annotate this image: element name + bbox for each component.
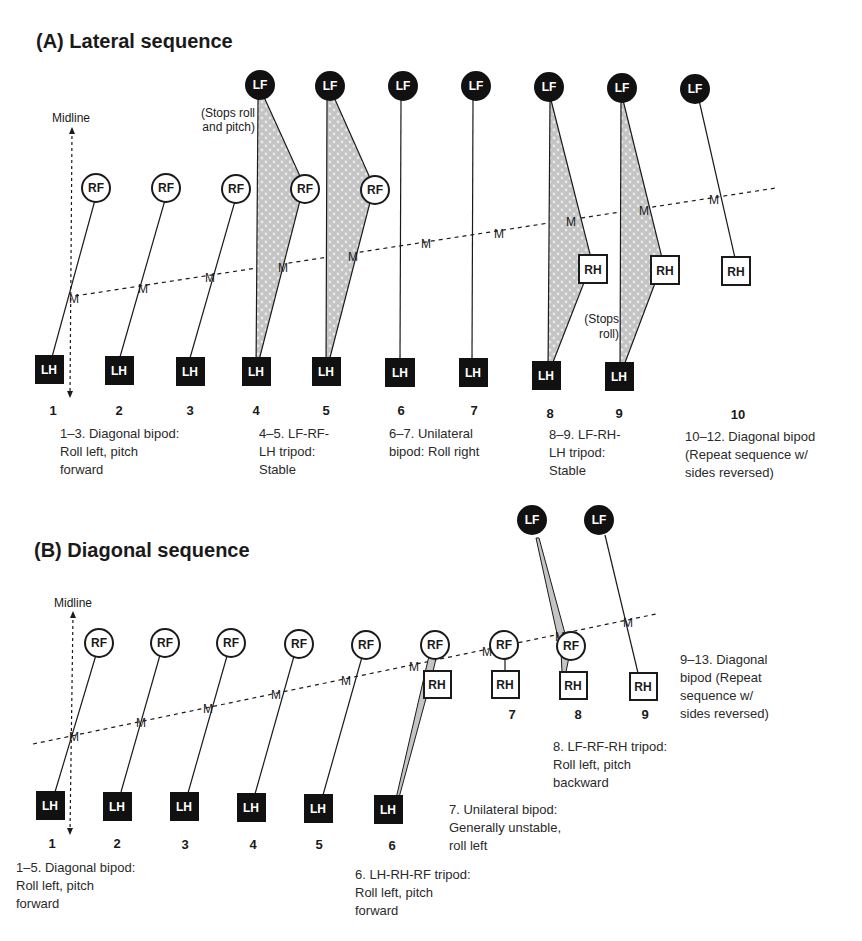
m-marker: M — [138, 282, 148, 296]
lf-foot-8: LF — [517, 505, 547, 535]
lf-foot-8: LF — [534, 72, 564, 102]
m-marker: M — [69, 292, 79, 306]
lf-foot-6: LF — [388, 71, 418, 101]
rf-label: RF — [291, 637, 307, 651]
midline-label-b: Midline — [54, 596, 92, 610]
step-number: 7 — [508, 707, 515, 722]
lf-foot-5: LF — [315, 71, 345, 101]
rf-foot-2: RF — [151, 629, 179, 657]
rh-label: RH — [656, 264, 673, 278]
annotation-stops-roll-1: (Stops — [584, 312, 619, 326]
step-numbers-a: 1 2 3 4 5 6 7 8 9 10 — [49, 403, 745, 422]
lf-label: LF — [469, 79, 484, 93]
lh-label: LH — [392, 366, 408, 380]
lh-foot-3: LH — [170, 792, 199, 821]
support-tripod-9 — [620, 100, 663, 376]
caption-line: forward — [355, 903, 398, 918]
lh-label: LH — [41, 363, 57, 377]
lf-label: LF — [525, 513, 540, 527]
rf-foot-3: RF — [222, 175, 250, 203]
arrowhead-down — [67, 391, 73, 398]
rh-feet-b: RH RH RH RH — [424, 671, 657, 700]
panel-a-title: (A) Lateral sequence — [36, 30, 233, 52]
lh-label: LH — [109, 800, 125, 814]
caption-line: Roll left, pitch — [60, 444, 138, 459]
lh-label: LH — [310, 802, 326, 816]
support-line-6 — [400, 100, 401, 358]
caption-line: bipod: Roll right — [389, 444, 480, 459]
support-line-2 — [120, 200, 165, 357]
lh-foot-4: LH — [242, 357, 271, 386]
annotation-stops-roll-pitch-2: and pitch) — [202, 120, 255, 134]
lh-label: LH — [318, 365, 334, 379]
rf-label: RF — [158, 181, 174, 195]
step-number: 2 — [115, 403, 122, 418]
panel-a: (A) Lateral sequence Midline M M M M M M… — [35, 30, 815, 480]
m-marker: M — [623, 616, 633, 630]
step-number: 6 — [397, 403, 404, 418]
lh-feet-b: LH LH LH LH LH LH — [36, 791, 403, 824]
caption-a-1: 1–3. Diagonal bipod: Roll left, pitch fo… — [60, 426, 179, 477]
m-marker: M — [566, 215, 576, 229]
arrowhead-up — [69, 127, 75, 134]
lf-label: LF — [396, 79, 411, 93]
lh-label: LH — [243, 801, 259, 815]
lh-label: LH — [465, 366, 481, 380]
rh-foot-7: RH — [492, 671, 519, 698]
m-marker: M — [205, 271, 215, 285]
lf-label: LF — [592, 513, 607, 527]
caption-line: 10–12. Diagonal bipod — [685, 429, 815, 444]
lh-foot-7: LH — [459, 358, 488, 387]
rf-feet-b: RF RF RF RF RF RF RF RF — [85, 629, 585, 660]
lf-label: LF — [542, 80, 557, 94]
rh-foot-8: RH — [560, 672, 587, 699]
caption-line: Roll left, pitch — [16, 878, 94, 893]
caption-line: sequence w/ — [680, 688, 753, 703]
rf-foot-4: RF — [285, 630, 313, 658]
step-number: 1 — [48, 836, 55, 851]
rh-label: RH — [634, 680, 651, 694]
step-number: 9 — [641, 707, 648, 722]
support-line-1 — [55, 655, 96, 792]
lf-label: LF — [323, 79, 338, 93]
lh-foot-3: LH — [176, 357, 205, 386]
arrowhead-up — [70, 611, 76, 618]
caption-line: 6. LH-RH-RF tripod: — [355, 867, 471, 882]
rf-label: RF — [297, 182, 313, 196]
rh-foot-6: RH — [424, 671, 451, 698]
caption-line: Stable — [259, 462, 296, 477]
caption-line: forward — [60, 462, 103, 477]
rh-foot-9: RH — [651, 256, 679, 284]
rf-label: RF — [88, 181, 104, 195]
step-number: 3 — [181, 837, 188, 852]
m-marker: M — [136, 716, 146, 730]
caption-b-4: 8. LF-RF-RH tripod: Roll left, pitch bac… — [553, 739, 667, 790]
rh-label: RH — [496, 678, 513, 692]
m-marker: M — [494, 227, 504, 241]
lh-feet-a: LH LH LH LH LH LH LH LH LH — [35, 355, 634, 391]
lf-feet-a: LF LF LF LF LF LF LF — [245, 70, 710, 104]
panel-b: (B) Diagonal sequence Midline M M M M M … — [16, 505, 769, 918]
lf-label: LF — [688, 82, 703, 96]
support-tripod-5 — [326, 86, 374, 373]
caption-line: 9–13. Diagonal — [680, 652, 768, 667]
caption-line: Roll left, pitch — [355, 885, 433, 900]
lf-foot-9: LF — [607, 73, 637, 103]
rh-label: RH — [727, 265, 744, 279]
lf-foot-9: LF — [584, 505, 614, 535]
lf-foot-4: LF — [245, 70, 275, 100]
midline-b — [70, 614, 73, 832]
caption-line: 4–5. LF-RF- — [259, 426, 329, 441]
lh-foot-8: LH — [532, 361, 561, 390]
caption-b-1: 1–5. Diagonal bipod: Roll left, pitch fo… — [16, 860, 135, 911]
step-number: 7 — [470, 403, 477, 418]
step-number: 3 — [186, 403, 193, 418]
m-marker: M — [341, 674, 351, 688]
panel-b-title: (B) Diagonal sequence — [34, 539, 250, 561]
rf-foot-5: RF — [352, 631, 380, 659]
caption-line: sides reversed) — [680, 706, 769, 721]
lh-label: LH — [176, 800, 192, 814]
rf-foot-1: RF — [85, 629, 113, 657]
lf-feet-b: LF LF — [517, 505, 614, 535]
rf-label: RF — [563, 639, 579, 653]
